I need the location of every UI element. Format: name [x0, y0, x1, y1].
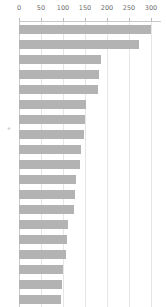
- bar-row: [19, 205, 74, 214]
- bar-chart: a 050100150200250300: [0, 0, 166, 307]
- bar-row: [19, 220, 68, 229]
- x-tick-label: 50: [37, 4, 45, 12]
- bar: [19, 25, 151, 34]
- bar: [19, 160, 80, 169]
- x-tick-label: 300: [145, 4, 157, 12]
- bar-row: [19, 85, 98, 94]
- x-tick-mark: [63, 18, 64, 21]
- bar: [19, 220, 68, 229]
- x-tick-mark: [151, 18, 152, 21]
- bar: [19, 175, 76, 184]
- bar: [19, 295, 61, 304]
- bar-row: [19, 295, 61, 304]
- bar: [19, 145, 81, 154]
- x-tick-mark: [41, 18, 42, 21]
- bar-row: [19, 70, 99, 79]
- bar: [19, 70, 99, 79]
- bar-row: [19, 190, 75, 199]
- bar: [19, 55, 101, 64]
- x-tick-label: 0: [17, 4, 21, 12]
- bar: [19, 205, 74, 214]
- bar: [19, 100, 86, 109]
- bar-series: [0, 22, 166, 307]
- bar-row: [19, 145, 81, 154]
- bar-row: [19, 130, 84, 139]
- bar-row: [19, 100, 86, 109]
- bar: [19, 265, 63, 274]
- bar-row: [19, 25, 151, 34]
- bar-row: [19, 55, 101, 64]
- bar: [19, 235, 67, 244]
- x-tick-label: 250: [123, 4, 135, 12]
- bar: [19, 115, 85, 124]
- x-tick-mark: [129, 18, 130, 21]
- x-tick-label: 100: [57, 4, 69, 12]
- bar: [19, 190, 75, 199]
- bar-row: [19, 40, 139, 49]
- bar: [19, 40, 139, 49]
- bar-row: [19, 160, 80, 169]
- bar-row: [19, 250, 66, 259]
- bar: [19, 250, 66, 259]
- bar-row: [19, 280, 62, 289]
- plot-area: [0, 22, 166, 307]
- x-tick-mark: [107, 18, 108, 21]
- x-axis: 050100150200250300: [0, 0, 166, 22]
- bar: [19, 85, 98, 94]
- x-tick-mark: [85, 18, 86, 21]
- bar: [19, 280, 62, 289]
- bar-row: [19, 265, 63, 274]
- bar: [19, 130, 84, 139]
- x-tick-label: 200: [101, 4, 113, 12]
- bar-row: [19, 175, 76, 184]
- bar-row: [19, 115, 85, 124]
- x-tick-label: 150: [79, 4, 91, 12]
- x-tick-mark: [19, 18, 20, 21]
- bar-row: [19, 235, 67, 244]
